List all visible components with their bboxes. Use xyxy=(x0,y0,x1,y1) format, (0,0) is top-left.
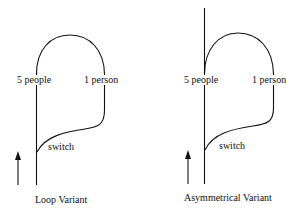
asym-side-track-label: 1 person xyxy=(251,75,287,85)
asymmetrical-variant-tracks xyxy=(205,8,274,184)
asymmetrical-direction-arrow xyxy=(185,150,191,184)
loop-switch-label: switch xyxy=(48,142,74,152)
loop-variant-caption: Loop Variant xyxy=(35,195,87,205)
asym-switch-label: switch xyxy=(219,141,245,151)
loop-main-track-label: 5 people xyxy=(16,75,52,85)
loop-track-path xyxy=(37,35,105,152)
arrow-up-icon xyxy=(15,151,21,160)
loop-variant-tracks xyxy=(37,35,105,185)
asym-main-track-label: 5 people xyxy=(183,75,219,85)
loop-side-track-label: 1 person xyxy=(83,75,119,85)
side-track-path xyxy=(205,33,274,150)
arrow-up-icon xyxy=(185,150,191,159)
loop-direction-arrow xyxy=(15,151,21,185)
asymmetrical-variant-caption: Asymmetrical Variant xyxy=(184,193,272,203)
trolley-diagrams xyxy=(0,0,300,214)
